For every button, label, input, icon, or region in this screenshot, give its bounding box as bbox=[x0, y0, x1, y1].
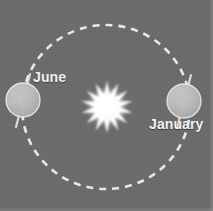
diagram-canvas bbox=[0, 0, 213, 211]
sun-core bbox=[96, 96, 118, 118]
planet-january bbox=[167, 84, 201, 118]
image-edge-right bbox=[210, 0, 213, 211]
planet-label-january: January bbox=[149, 117, 203, 131]
planet-label-june: June bbox=[33, 70, 66, 84]
orbit-diagram: June January bbox=[0, 0, 213, 211]
sun bbox=[81, 81, 133, 133]
planet-june bbox=[6, 83, 40, 117]
image-edge-bottom bbox=[0, 208, 213, 211]
